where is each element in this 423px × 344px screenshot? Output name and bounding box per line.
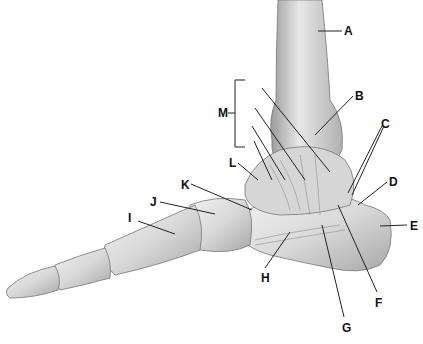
label-m: M xyxy=(218,107,228,119)
label-d: D xyxy=(389,176,398,188)
label-c: C xyxy=(381,118,390,130)
label-e: E xyxy=(410,220,418,232)
label-i: I xyxy=(128,212,131,224)
label-j: J xyxy=(150,196,157,208)
label-f: F xyxy=(375,297,382,309)
foot-bones-illustration xyxy=(0,0,423,344)
label-g: G xyxy=(342,322,351,334)
label-h: H xyxy=(261,272,270,284)
label-a: A xyxy=(344,25,353,37)
label-k: K xyxy=(181,179,190,191)
label-b: B xyxy=(355,90,364,102)
label-l: L xyxy=(229,157,236,169)
foot-anatomy-diagram: A B C D E F G H I J K L M xyxy=(0,0,423,344)
